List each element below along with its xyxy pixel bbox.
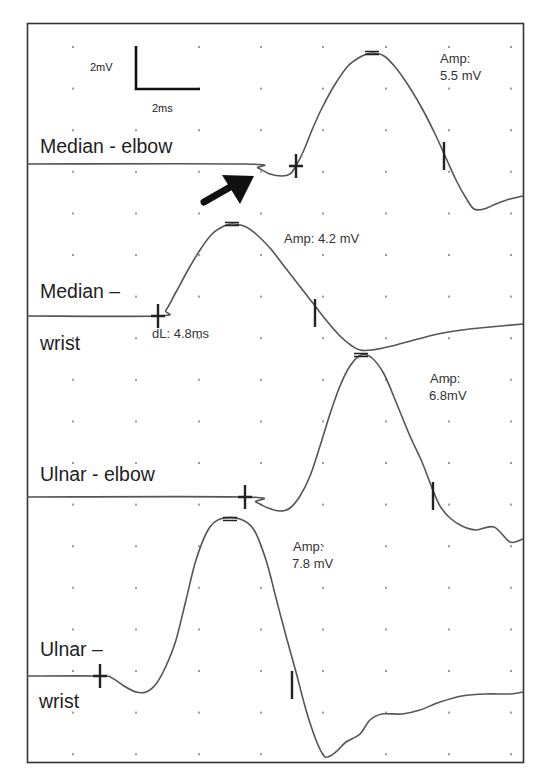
grid-dot bbox=[385, 587, 387, 589]
grid-dot bbox=[385, 504, 387, 506]
grid-dot bbox=[198, 462, 200, 464]
grid-dot bbox=[322, 296, 324, 298]
ulnar-elbow-amp-line2: 6.8mV bbox=[429, 389, 467, 402]
grid-dot bbox=[448, 212, 450, 214]
grid-dot bbox=[510, 296, 512, 298]
median-wrist-label-line2: wrist bbox=[40, 334, 80, 354]
median-elbow-amp-line1: Amp: bbox=[440, 52, 470, 65]
grid-dot bbox=[72, 129, 74, 131]
grid-dot bbox=[135, 337, 137, 339]
grid-dot bbox=[198, 712, 200, 714]
grid-dot bbox=[510, 129, 512, 131]
grid-dot bbox=[448, 129, 450, 131]
grid-dot bbox=[385, 212, 387, 214]
grid-dot bbox=[510, 462, 512, 464]
grid-dot bbox=[72, 254, 74, 256]
grid-dot bbox=[385, 337, 387, 339]
grid-dot bbox=[72, 587, 74, 589]
ulnar-elbow-amp-line1: Amp: bbox=[430, 372, 460, 385]
grid-dot bbox=[260, 670, 262, 672]
grid-dot bbox=[448, 670, 450, 672]
grid-dot bbox=[135, 171, 137, 173]
grid-dot bbox=[448, 46, 450, 48]
grid-dot bbox=[198, 171, 200, 173]
grid-dot bbox=[510, 628, 512, 630]
grid-dot bbox=[385, 171, 387, 173]
grid-dot bbox=[72, 628, 74, 630]
pointer-arrow-icon bbox=[204, 175, 254, 204]
grid-dot bbox=[260, 129, 262, 131]
grid-dot bbox=[322, 88, 324, 90]
grid-dot bbox=[135, 670, 137, 672]
grid-dot bbox=[260, 171, 262, 173]
grid-dot bbox=[135, 129, 137, 131]
grid-dot bbox=[72, 753, 74, 755]
grid-dot bbox=[385, 545, 387, 547]
grid-dot bbox=[510, 46, 512, 48]
grid-dot bbox=[135, 379, 137, 381]
grid-dot bbox=[135, 296, 137, 298]
grid-dot bbox=[135, 254, 137, 256]
grid-dot bbox=[510, 337, 512, 339]
grid-dot bbox=[72, 88, 74, 90]
median-wrist-label-line1: Median – bbox=[40, 282, 120, 302]
grid-dot bbox=[448, 171, 450, 173]
grid-dot bbox=[198, 753, 200, 755]
grid-dot bbox=[322, 670, 324, 672]
scale-voltage-label: 2mV bbox=[90, 62, 113, 73]
ulnar-wrist-peak-marker-icon bbox=[223, 518, 237, 521]
grid-dot bbox=[135, 545, 137, 547]
grid-dot bbox=[385, 88, 387, 90]
grid-dot bbox=[198, 254, 200, 256]
grid-dot bbox=[135, 628, 137, 630]
grid-dot bbox=[135, 504, 137, 506]
grid-dot bbox=[198, 628, 200, 630]
grid-dot bbox=[260, 254, 262, 256]
grid-dot bbox=[72, 212, 74, 214]
scale-time-label: 2ms bbox=[152, 103, 173, 114]
grid-dot bbox=[198, 420, 200, 422]
grid-dot bbox=[385, 296, 387, 298]
grid-dot bbox=[260, 379, 262, 381]
median-wrist-latency: dL: 4.8ms bbox=[152, 327, 209, 340]
grid-dot bbox=[260, 337, 262, 339]
grid-dot bbox=[322, 420, 324, 422]
grid-dot bbox=[322, 379, 324, 381]
grid-dot bbox=[510, 504, 512, 506]
grid-dot bbox=[385, 420, 387, 422]
grid-dot bbox=[198, 296, 200, 298]
grid-dot bbox=[322, 212, 324, 214]
grid-dot bbox=[260, 628, 262, 630]
scale-bar-icon bbox=[136, 46, 200, 89]
grid-dot bbox=[448, 420, 450, 422]
grid-dot bbox=[510, 712, 512, 714]
grid-dot bbox=[260, 212, 262, 214]
grid-dot bbox=[510, 753, 512, 755]
grid-dot bbox=[322, 129, 324, 131]
grid-dot bbox=[322, 171, 324, 173]
grid-dot bbox=[135, 587, 137, 589]
grid-dot bbox=[260, 587, 262, 589]
ulnar-elbow-onset-marker-icon bbox=[238, 485, 252, 509]
grid-dot bbox=[510, 379, 512, 381]
grid-dot bbox=[385, 628, 387, 630]
grid-dot bbox=[510, 88, 512, 90]
grid-dot bbox=[260, 88, 262, 90]
grid-dot bbox=[72, 46, 74, 48]
grid-dot bbox=[198, 46, 200, 48]
grid-dot bbox=[510, 670, 512, 672]
ulnar-elbow-label: Ulnar - elbow bbox=[40, 465, 155, 485]
grid-dot bbox=[322, 46, 324, 48]
ulnar-wrist-amp-line1: Amp: bbox=[293, 540, 323, 553]
grid-dot bbox=[72, 420, 74, 422]
ulnar-wrist-label-line1: Ulnar – bbox=[40, 640, 103, 660]
grid-dot bbox=[510, 420, 512, 422]
grid-dot bbox=[322, 254, 324, 256]
grid-dot bbox=[198, 129, 200, 131]
grid-dot bbox=[510, 254, 512, 256]
grid-dot bbox=[135, 753, 137, 755]
grid-dot bbox=[385, 753, 387, 755]
grid-dot bbox=[72, 171, 74, 173]
grid-dot bbox=[448, 296, 450, 298]
grid-dot bbox=[385, 46, 387, 48]
